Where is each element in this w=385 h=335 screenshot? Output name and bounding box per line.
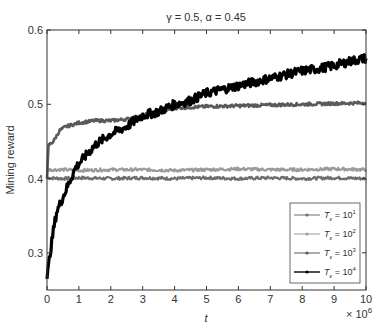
y-tick-label: 0.6	[28, 24, 43, 36]
x-tick-label: 9	[331, 293, 337, 305]
x-tick-label: 10	[360, 293, 372, 305]
x-tick-label: 4	[172, 293, 178, 305]
x-axis-label: t	[204, 312, 208, 324]
x-tick-label: 3	[140, 293, 146, 305]
x-tick-label: 6	[235, 293, 241, 305]
x-tick-label: 8	[299, 293, 305, 305]
x-tick-label: 2	[108, 293, 114, 305]
y-tick-label: 0.5	[28, 98, 43, 110]
y-tick-label: 0.3	[28, 247, 43, 259]
line-chart: γ = 0.5, α = 0.45 0123456789100.30.40.50…	[0, 0, 385, 335]
legend: Tε = 101Tε = 102Tε = 103Tε = 104	[290, 203, 360, 283]
y-tick-label: 0.4	[28, 173, 43, 185]
x-tick-label: 1	[76, 293, 82, 305]
series-line	[47, 168, 366, 172]
series-line	[47, 102, 366, 179]
y-axis-label: Mining reward	[4, 125, 16, 194]
x-tick-label: 0	[44, 293, 50, 305]
series-line	[47, 176, 366, 180]
x-tick-label: 7	[267, 293, 273, 305]
chart-title: γ = 0.5, α = 0.45	[166, 11, 246, 23]
x-tick-label: 5	[203, 293, 209, 305]
x-multiplier-label: × 106	[346, 306, 373, 320]
